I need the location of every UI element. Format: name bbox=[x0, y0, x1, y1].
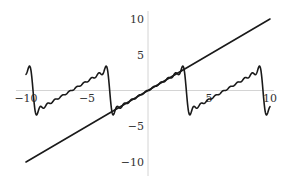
y-tick-label: 5 bbox=[137, 49, 144, 62]
x-tick-labels: −10−5510 bbox=[14, 92, 277, 105]
y-tick-label: −5 bbox=[128, 120, 144, 133]
y-tick-label: −10 bbox=[121, 156, 144, 169]
x-tick-label: 10 bbox=[263, 92, 277, 105]
x-tick-label: 5 bbox=[206, 92, 213, 105]
y-tick-label: 10 bbox=[130, 13, 144, 26]
x-tick-label: −5 bbox=[79, 92, 95, 105]
chart: −10−5510 105−5−10 bbox=[0, 0, 289, 182]
